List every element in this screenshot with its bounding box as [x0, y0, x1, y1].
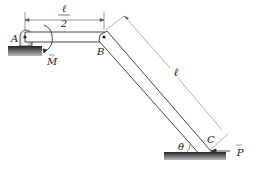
bar-ab — [25, 32, 109, 42]
bar-bc — [99, 31, 211, 159]
ground-support-a — [8, 46, 42, 56]
moment-label: M — [46, 56, 58, 67]
point-a-label: A — [10, 33, 18, 44]
mechanism-diagram: ℓ 2 ℓ M P θ A B C — [0, 0, 253, 174]
dimension-bc — [106, 16, 228, 150]
force-label: P — [236, 147, 244, 158]
dimension-ab-denominator: 2 — [60, 18, 67, 29]
dimension-bc-label: ℓ — [174, 66, 179, 79]
angle-arc-icon — [187, 144, 190, 152]
pin-b-icon — [102, 35, 105, 38]
point-b-label: B — [96, 46, 104, 57]
dimension-ab-numerator: ℓ — [62, 3, 66, 14]
point-c-label: C — [207, 134, 215, 145]
pin-a-icon — [23, 35, 26, 38]
ground-support-c — [164, 152, 226, 160]
angle-label: θ — [178, 141, 184, 152]
